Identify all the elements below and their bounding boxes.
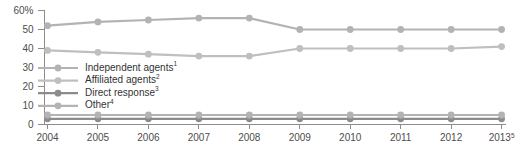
y-tick-label: 10: [22, 100, 34, 111]
line-chart: 0102030405060% 2004200520062007200820092…: [0, 0, 521, 146]
data-point: [195, 112, 202, 119]
series-1: [44, 43, 505, 59]
legend-swatch-marker: [55, 77, 62, 84]
legend-swatch-marker: [55, 65, 62, 72]
y-tick-label-group: 0102030405060%: [13, 5, 33, 130]
data-point: [347, 112, 354, 119]
x-tick-label: 2011: [390, 132, 412, 143]
legend-item-0[interactable]: Independent agents1: [38, 60, 177, 72]
series-line: [48, 47, 502, 57]
legend-superscript: 1: [173, 60, 177, 67]
data-point: [498, 112, 505, 119]
legend-superscript: 3: [155, 85, 159, 92]
data-point: [246, 112, 253, 119]
x-tick-label: 2009: [289, 132, 312, 143]
x-tick-label: 2012: [440, 132, 463, 143]
x-tick-label: 2007: [188, 132, 211, 143]
data-point: [498, 26, 505, 33]
series-2: [44, 115, 505, 122]
y-tick-label: 40: [22, 43, 34, 54]
legend-label: Affiliated agents2: [85, 73, 160, 85]
x-tick-label: 2008: [238, 132, 261, 143]
y-tick-label: 60%: [13, 5, 33, 16]
legend-superscript: 4: [110, 98, 114, 105]
data-point: [44, 22, 51, 29]
data-point: [44, 112, 51, 119]
data-point: [195, 53, 202, 60]
series-3: [44, 112, 505, 119]
legend-label: Other4: [85, 98, 114, 110]
x-tick-label: 2006: [137, 132, 160, 143]
data-point: [498, 43, 505, 50]
legend-superscript: 2: [156, 73, 160, 80]
data-point: [246, 15, 253, 22]
chart-canvas: 0102030405060% 2004200520062007200820092…: [0, 0, 521, 146]
x-tick-label: 20135: [489, 131, 515, 143]
y-tick-label: 50: [22, 24, 34, 35]
data-point: [145, 112, 152, 119]
data-point: [296, 26, 303, 33]
data-point: [95, 19, 102, 26]
x-tick-label-group: 2004200520062007200820092010201120122013…: [36, 131, 515, 143]
x-tick-superscript: 5: [511, 131, 515, 138]
data-point: [448, 45, 455, 52]
data-point: [347, 26, 354, 33]
chart-legend: Independent agents1Affiliated agents2Dir…: [38, 60, 177, 110]
data-point: [246, 53, 253, 60]
y-tick-label: 20: [22, 81, 34, 92]
legend-swatch-marker: [55, 90, 62, 97]
data-point: [296, 112, 303, 119]
data-point: [397, 26, 404, 33]
data-point: [448, 26, 455, 33]
x-tick-group: [48, 125, 502, 129]
legend-item-1[interactable]: Affiliated agents2: [38, 73, 160, 85]
data-point: [195, 15, 202, 22]
data-point: [145, 17, 152, 24]
data-point: [95, 49, 102, 56]
series-line: [48, 18, 502, 29]
data-point: [296, 45, 303, 52]
x-tick-label: 2005: [87, 132, 110, 143]
legend-swatch-marker: [55, 102, 62, 109]
x-tick-label: 2010: [339, 132, 362, 143]
data-point: [95, 112, 102, 119]
legend-item-2[interactable]: Direct response3: [38, 85, 159, 97]
data-point: [448, 112, 455, 119]
data-point: [347, 45, 354, 52]
data-point: [397, 112, 404, 119]
data-point: [145, 51, 152, 58]
data-point: [44, 47, 51, 54]
x-tick-label: 2004: [36, 132, 59, 143]
y-tick-label: 0: [28, 119, 34, 130]
legend-label: Independent agents1: [85, 60, 177, 72]
series-0: [44, 15, 505, 33]
legend-label: Direct response3: [85, 85, 159, 97]
data-point: [397, 45, 404, 52]
y-tick-label: 30: [22, 62, 34, 73]
legend-item-3[interactable]: Other4: [38, 98, 114, 110]
x-axis: 2004200520062007200820092010201120122013…: [36, 125, 515, 143]
